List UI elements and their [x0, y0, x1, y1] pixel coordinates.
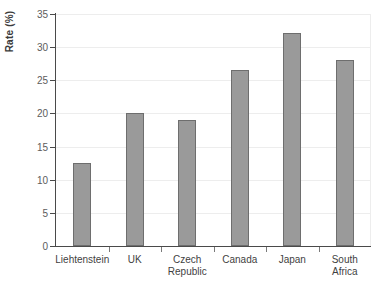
- y-axis-tick-label: 35: [4, 9, 48, 20]
- x-axis-tick-mark: [214, 247, 215, 252]
- x-axis-category-label: UK: [128, 254, 142, 266]
- bar: [231, 70, 249, 246]
- gridline: [56, 47, 371, 48]
- plot-frame-right: [370, 14, 371, 246]
- y-axis-tick-label: 5: [4, 207, 48, 218]
- gridline: [56, 14, 371, 15]
- bar: [73, 163, 91, 246]
- y-axis-tick-label: 20: [4, 108, 48, 119]
- y-axis-tick-labels: 05101520253035: [0, 0, 48, 286]
- gridline: [56, 80, 371, 81]
- x-axis-category-label: Japan: [279, 254, 306, 266]
- y-axis-tick-mark: [50, 47, 55, 48]
- y-axis-tick-label: 10: [4, 174, 48, 185]
- gridline: [56, 113, 371, 114]
- x-axis-category-label: South Africa: [324, 254, 366, 278]
- y-axis-tick-mark: [50, 246, 55, 247]
- y-axis-tick-label: 30: [4, 42, 48, 53]
- plot-area: [56, 14, 371, 246]
- bar: [178, 120, 196, 246]
- y-axis-tick-label: 0: [4, 241, 48, 252]
- x-axis-category-label: Czech Republic: [168, 254, 207, 278]
- bar: [336, 60, 354, 246]
- x-axis-tick-mark: [266, 247, 267, 252]
- y-axis-tick-mark: [50, 80, 55, 81]
- x-axis-tick-mark: [319, 247, 320, 252]
- bar: [283, 33, 301, 246]
- y-axis-tick-mark: [50, 147, 55, 148]
- x-axis-tick-mark: [161, 247, 162, 252]
- gridline: [56, 213, 371, 214]
- y-axis-tick-mark: [50, 213, 55, 214]
- y-axis-tick-mark: [50, 14, 55, 15]
- x-axis-category-label: Canada: [222, 254, 257, 266]
- gridline: [56, 147, 371, 148]
- y-axis-tick-label: 15: [4, 141, 48, 152]
- x-axis-category-label: Liehtenstein: [55, 254, 109, 266]
- y-axis-tick-label: 25: [4, 75, 48, 86]
- y-axis-tick-mark: [50, 113, 55, 114]
- y-axis-tick-mark: [50, 180, 55, 181]
- x-axis-tick-mark: [109, 247, 110, 252]
- bar: [126, 113, 144, 246]
- gridline: [56, 180, 371, 181]
- bar-chart: Rate (%) 05101520253035 LiehtensteinUKCz…: [0, 0, 387, 286]
